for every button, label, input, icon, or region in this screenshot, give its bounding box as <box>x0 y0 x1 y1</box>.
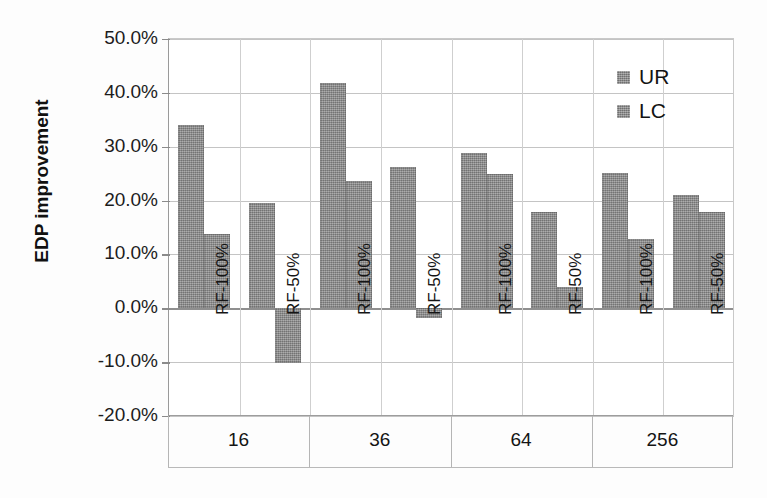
x-tick-label-3: RF-50% <box>425 253 445 315</box>
x-tick-label-2: RF-100% <box>355 243 375 315</box>
x-tick-label-5: RF-50% <box>566 253 586 315</box>
bar-ur-2 <box>320 83 346 308</box>
y-tick-label: 50.0% <box>48 27 158 49</box>
x-tick-label-7: RF-50% <box>708 253 728 315</box>
group-band-edge <box>168 416 169 468</box>
y-tick-label: -20.0% <box>48 404 158 426</box>
y-tick-label: 30.0% <box>48 135 158 157</box>
slot-separator <box>522 39 523 416</box>
slot-separator <box>310 39 311 416</box>
y-tick-mark <box>162 362 170 363</box>
bar-ur-5 <box>531 212 557 308</box>
y-axis-tick-labels: 50.0%40.0%30.0%20.0%10.0%0.0%-10.0%-20.0… <box>38 0 158 498</box>
x-tick-label-1: RF-50% <box>284 253 304 315</box>
y-tick-mark <box>162 39 170 40</box>
legend-swatch-icon <box>617 105 630 118</box>
y-tick-mark <box>162 93 170 94</box>
slot-separator <box>452 39 453 416</box>
slot-separator <box>381 39 382 416</box>
bar-ur-6 <box>602 173 628 309</box>
legend-label: LC <box>639 99 666 123</box>
y-tick-label: 0.0% <box>48 296 158 318</box>
x-tick-label-4: RF-100% <box>496 243 516 315</box>
group-label-36: 36 <box>309 429 450 451</box>
bar-ur-4 <box>461 153 487 308</box>
legend: URLC <box>617 60 747 128</box>
x-tick-label-0: RF-100% <box>213 243 233 315</box>
bar-lc-1 <box>275 308 301 363</box>
group-label-64: 64 <box>451 429 592 451</box>
y-tick-label: 40.0% <box>48 81 158 103</box>
legend-item-ur[interactable]: UR <box>617 60 747 94</box>
y-tick-label: 10.0% <box>48 242 158 264</box>
slot-separator <box>593 39 594 416</box>
group-label-16: 16 <box>168 429 309 451</box>
group-band-edge <box>732 416 733 468</box>
y-tick-mark <box>162 147 170 148</box>
legend-item-lc[interactable]: LC <box>617 94 747 128</box>
bar-ur-7 <box>673 195 699 309</box>
bar-ur-0 <box>178 125 204 309</box>
legend-swatch-icon <box>617 71 630 84</box>
axis-bottom-rule <box>168 467 733 468</box>
legend-label: UR <box>639 65 669 89</box>
chart-canvas: EDP improvement 50.0%40.0%30.0%20.0%10.0… <box>0 0 767 498</box>
bar-ur-3 <box>390 167 416 308</box>
slot-separator <box>240 39 241 416</box>
y-tick-mark <box>162 308 170 309</box>
y-tick-mark <box>162 201 170 202</box>
y-tick-label: -10.0% <box>48 350 158 372</box>
group-axis-band: 163664256 <box>168 415 733 468</box>
y-tick-mark <box>162 254 170 255</box>
bar-ur-1 <box>249 203 275 308</box>
y-tick-label: 20.0% <box>48 189 158 211</box>
x-tick-label-6: RF-100% <box>637 243 657 315</box>
group-label-256: 256 <box>592 429 733 451</box>
